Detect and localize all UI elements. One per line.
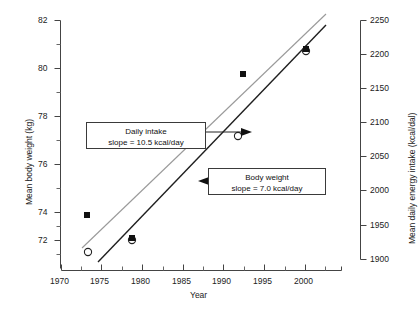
xtick-label-1975: 1975: [90, 276, 109, 286]
body-weight-callout: Body weight slope = 7.0 kcal/day: [208, 168, 326, 195]
y-axis-title: Mean body weight (kg): [24, 119, 34, 205]
xtick-label-1980: 1980: [131, 276, 150, 286]
xtick-label-2000: 2000: [294, 276, 313, 286]
body-weight-callout-line1: Body weight: [213, 172, 321, 183]
x-axis-title: Year: [190, 290, 207, 300]
ytick-label-72: 72: [38, 235, 47, 245]
y2tick-label-1950: 1950: [370, 220, 389, 230]
ytick-label-76: 76: [38, 159, 47, 169]
ytick-label-74: 74: [38, 207, 47, 217]
x-axis: [62, 265, 342, 271]
xtick-label-1970: 1970: [50, 276, 69, 286]
xtick-label-1990: 1990: [212, 276, 231, 286]
daily-intake-arrow: [206, 128, 252, 136]
xtick-label-1985: 1985: [172, 276, 191, 286]
y2tick-label-2000: 2000: [370, 185, 389, 195]
left-axis: [55, 21, 61, 269]
y2tick-label-2100: 2100: [370, 117, 389, 127]
y2tick-label-2250: 2250: [370, 15, 389, 25]
y2tick-label-1900: 1900: [370, 254, 389, 264]
daily-intake-callout-line2: slope = 10.5 kcal/day: [91, 137, 201, 148]
xtick-label-1995: 1995: [253, 276, 272, 286]
series-body-weight-markers: [84, 47, 309, 255]
chart-canvas: [0, 0, 420, 309]
y2tick-label-2200: 2200: [370, 49, 389, 59]
ytick-label-82: 82: [38, 15, 47, 25]
ytick-label-80: 80: [38, 63, 47, 73]
body-weight-callout-line2: slope = 7.0 kcal/day: [213, 183, 321, 194]
chart-figure: 82 80 78 76 74 72 2250 2200 2150 2100 20…: [0, 0, 420, 309]
daily-intake-callout-line1: Daily intake: [91, 126, 201, 137]
y2tick-label-2150: 2150: [370, 83, 389, 93]
y2-axis-title: Mean daily energy intake (kcal/dal): [407, 113, 417, 244]
y2tick-label-2050: 2050: [370, 151, 389, 161]
right-axis: [361, 21, 367, 260]
ytick-label-78: 78: [38, 111, 47, 121]
daily-intake-callout: Daily intake slope = 10.5 kcal/day: [86, 122, 206, 149]
